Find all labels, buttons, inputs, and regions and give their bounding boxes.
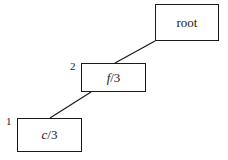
node-f-index: 2 — [70, 60, 76, 72]
node-f: f/3 — [81, 63, 146, 92]
edge-f-c — [50, 92, 91, 118]
edge-root-f — [115, 41, 155, 63]
node-c-arity: /3 — [47, 127, 57, 143]
node-c: c/3 — [17, 118, 82, 152]
node-c-index: 1 — [6, 115, 12, 127]
node-root: root — [155, 4, 219, 41]
node-root-label: root — [177, 15, 198, 31]
node-f-arity: /3 — [110, 70, 120, 86]
